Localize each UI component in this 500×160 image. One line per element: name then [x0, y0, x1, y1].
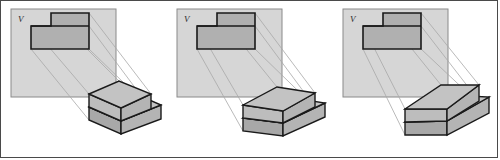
solid-object-1 — [89, 81, 161, 134]
figure-frame: V — [0, 0, 498, 158]
projection-panel-3: V — [333, 1, 499, 159]
chamfer-face — [405, 109, 447, 122]
projection-panel-2: V — [167, 1, 333, 159]
projection-panel-1: V — [1, 1, 167, 159]
base-front-face — [405, 121, 447, 135]
